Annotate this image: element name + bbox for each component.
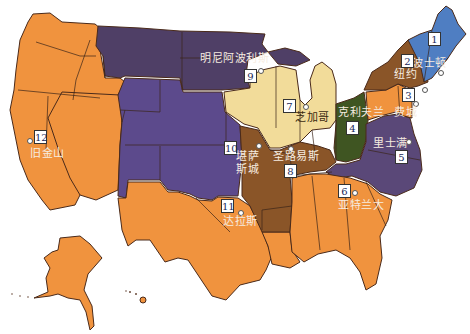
- city-marker-chicago: [303, 104, 309, 110]
- hawaii-islet: [129, 291, 131, 293]
- district-badge-4: 4: [346, 121, 359, 135]
- alaska: [34, 236, 102, 330]
- city-label-chicago: 芝加哥: [295, 112, 330, 124]
- city-label-atlanta: 亚特兰大: [338, 200, 384, 212]
- city-label-philadelphia: 费城: [394, 107, 417, 119]
- district-badge-11: 11: [221, 199, 234, 213]
- district-badge-6: 6: [338, 184, 351, 198]
- aleutian-islet: [11, 293, 13, 295]
- city-label-richmond: 里士满: [373, 138, 408, 150]
- city-label-kansas-city: 堪萨斯城: [236, 150, 262, 176]
- city-label-boston: 波士顿: [412, 58, 447, 70]
- city-marker-kansas-city: [256, 143, 262, 149]
- city-label-new-york: 纽约: [394, 69, 417, 81]
- aleutian-islet: [19, 295, 21, 297]
- district-badge-8: 8: [284, 164, 297, 178]
- city-label-san-francisco: 旧金山: [30, 148, 65, 160]
- district-badge-2: 2: [401, 54, 414, 68]
- us-federal-reserve-districts-map: [0, 0, 470, 334]
- city-marker-new-york: [422, 87, 428, 93]
- city-marker-minneapolis: [258, 68, 264, 74]
- district-badge-12: 12: [34, 130, 47, 144]
- city-marker-atlanta: [352, 190, 358, 196]
- city-marker-boston: [438, 70, 444, 76]
- hawaii-big-island: [140, 297, 146, 303]
- city-label-cleveland: 克利夫兰: [338, 107, 384, 119]
- city-label-st-louis: 圣路易斯: [273, 151, 319, 163]
- district-badge-5: 5: [395, 150, 408, 164]
- aleutian-islet: [27, 296, 29, 298]
- district-badge-1: 1: [428, 32, 441, 46]
- city-marker-san-francisco: [27, 138, 33, 144]
- district-badge-9: 9: [244, 69, 257, 83]
- city-label-minneapolis: 明尼阿波利斯: [200, 53, 269, 65]
- district-9-upper-michigan: [268, 48, 310, 66]
- hawaii-islet: [135, 293, 137, 295]
- city-label-dallas: 达拉斯: [223, 216, 258, 228]
- hawaii-islet: [125, 290, 127, 292]
- district-badge-3: 3: [402, 88, 415, 102]
